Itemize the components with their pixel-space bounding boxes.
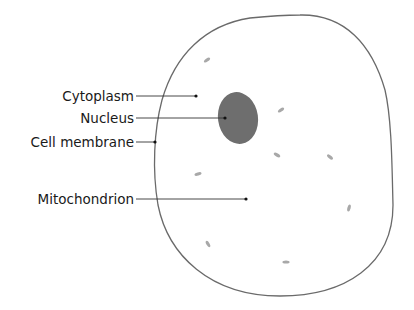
- cell-membrane-outline: [155, 15, 393, 296]
- mitochondrion-shape: [277, 107, 285, 114]
- mitochondrion-shape: [273, 152, 281, 158]
- mitochondrion-shape: [194, 172, 202, 177]
- mitochondria-group: [194, 57, 351, 264]
- leader-dot: [244, 197, 247, 200]
- label-cytoplasm: Cytoplasm: [62, 88, 134, 104]
- label-mitochondrion: Mitochondrion: [38, 191, 134, 207]
- mitochondrion-shape: [347, 204, 352, 212]
- mitochondrion-shape: [203, 57, 211, 64]
- cell-diagram: Cytoplasm Nucleus Cell membrane Mitochon…: [0, 0, 414, 310]
- leader-dot: [153, 140, 156, 143]
- mitochondrion-shape: [326, 153, 334, 160]
- leader-dot: [194, 94, 197, 97]
- mitochondrion-shape: [282, 260, 289, 263]
- mitochondrion-shape: [205, 240, 211, 248]
- label-cell-membrane: Cell membrane: [31, 134, 134, 150]
- leader-dot: [223, 116, 226, 119]
- label-nucleus: Nucleus: [80, 110, 134, 126]
